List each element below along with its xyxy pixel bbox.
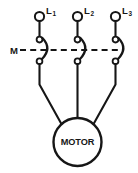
line-terminal-l3-icon[interactable] (111, 12, 120, 21)
line-label-l3-subscript: 3 (128, 10, 132, 17)
line-terminal-l1-icon[interactable] (35, 12, 44, 21)
line-label-l2-subscript: 2 (90, 10, 94, 17)
line-terminal-l2-icon[interactable] (73, 12, 82, 21)
line-label-l2: L (84, 5, 90, 16)
pole-group-l2 (73, 12, 85, 120)
line-label-l1-subscript: 1 (52, 10, 56, 17)
schematic-canvas: M L 1 L 2 L 3 MOTOR (0, 0, 138, 173)
line-label-l3: L (122, 5, 128, 16)
coil-label-m: M (10, 45, 18, 56)
motor-label-text: MOTOR (61, 137, 95, 147)
motor-lead-wire-l3 (93, 64, 116, 125)
motor-lead-wire-l1 (40, 64, 63, 125)
motor-starter-diagram: M L 1 L 2 L 3 MOTOR (0, 0, 138, 173)
line-label-l1: L (46, 5, 52, 16)
pole-group-l1 (35, 12, 62, 125)
pole-group-l3 (93, 12, 123, 125)
